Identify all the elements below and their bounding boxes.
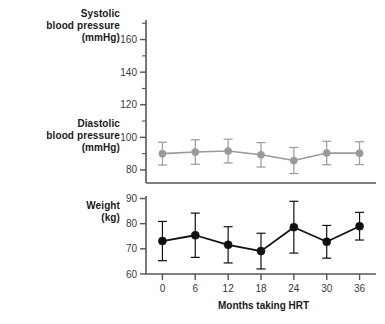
x-tick-label: 24	[288, 283, 300, 294]
data-point	[356, 150, 363, 157]
x-tick-label: 12	[223, 283, 235, 294]
figure-container: Systolic blood pressure (mmHg) Diastolic…	[0, 0, 385, 324]
y-tick-label: 120	[120, 99, 137, 110]
data-point	[257, 151, 264, 158]
weight-label-line1: Weight	[8, 200, 120, 212]
x-tick-label: 6	[193, 283, 199, 294]
data-point	[290, 223, 298, 231]
y-tick-label: 160	[120, 34, 137, 45]
data-point	[159, 150, 166, 157]
weight-axis-label: Weight (kg)	[8, 200, 120, 224]
y-tick-label: 70	[126, 243, 138, 254]
x-axis-title: Months taking HRT	[218, 300, 309, 311]
x-tick-label: 30	[321, 283, 333, 294]
weight-plot: 60708090061218243036	[126, 193, 376, 294]
plot-area: 80100120140160 60708090061218243036	[0, 0, 385, 324]
x-tick-label: 0	[160, 283, 166, 294]
data-point	[192, 148, 199, 155]
y-tick-label: 90	[126, 193, 138, 204]
systolic-axis-label: Systolic blood pressure (mmHg)	[8, 8, 120, 44]
y-tick-label: 100	[120, 132, 137, 143]
data-point	[323, 149, 330, 156]
systolic-label-line3: (mmHg)	[8, 32, 120, 44]
diastolic-label-line2: blood pressure	[8, 130, 120, 142]
y-tick-label: 60	[126, 269, 138, 280]
x-tick-label: 18	[255, 283, 267, 294]
data-point	[290, 157, 297, 164]
diastolic-label-line1: Diastolic	[8, 118, 120, 130]
diastolic-axis-label: Diastolic blood pressure (mmHg)	[8, 118, 120, 154]
data-point	[158, 237, 166, 245]
data-point	[225, 147, 232, 154]
y-tick-label: 80	[126, 218, 138, 229]
y-tick-label: 140	[120, 67, 137, 78]
data-point	[356, 222, 364, 230]
systolic-label-line1: Systolic	[8, 8, 120, 20]
data-point	[191, 231, 199, 239]
systolic-label-line2: blood pressure	[8, 20, 120, 32]
x-tick-label: 36	[354, 283, 366, 294]
y-tick-label: 80	[126, 164, 138, 175]
weight-label-line2: (kg)	[8, 212, 120, 224]
diastolic-label-line3: (mmHg)	[8, 142, 120, 154]
data-point	[257, 247, 265, 255]
data-point	[224, 241, 232, 249]
data-point	[323, 238, 331, 246]
blood-pressure-plot: 80100120140160	[120, 20, 376, 183]
